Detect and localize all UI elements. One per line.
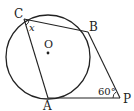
label-o: O xyxy=(44,38,53,51)
angle-label-60: 60° xyxy=(98,86,116,97)
circle-o xyxy=(6,15,90,99)
angle-label-x: x xyxy=(29,22,35,33)
label-b: B xyxy=(89,20,98,34)
label-a: A xyxy=(42,99,52,111)
label-p: P xyxy=(123,92,131,106)
segment-ca xyxy=(24,19,48,98)
center-dot xyxy=(47,52,50,55)
geometry-diagram: C B A P O x 60° xyxy=(0,0,134,111)
label-c: C xyxy=(14,7,23,21)
